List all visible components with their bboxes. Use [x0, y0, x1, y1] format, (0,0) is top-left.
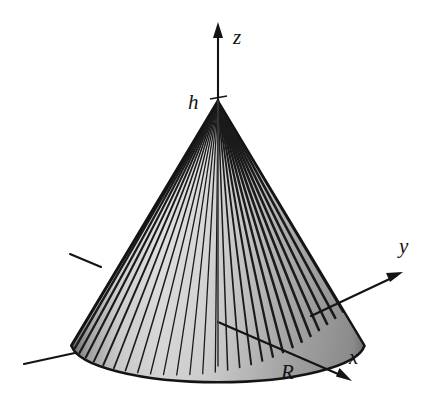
- cone-diagram-svg: z y x h R: [0, 0, 433, 409]
- x-axis-label: x: [348, 345, 359, 369]
- radius-label-r: R: [280, 360, 294, 384]
- height-label-h: h: [188, 90, 199, 114]
- cone-figure: z y x h R: [0, 0, 433, 409]
- z-axis-label: z: [232, 25, 241, 49]
- y-axis-label: y: [397, 234, 409, 258]
